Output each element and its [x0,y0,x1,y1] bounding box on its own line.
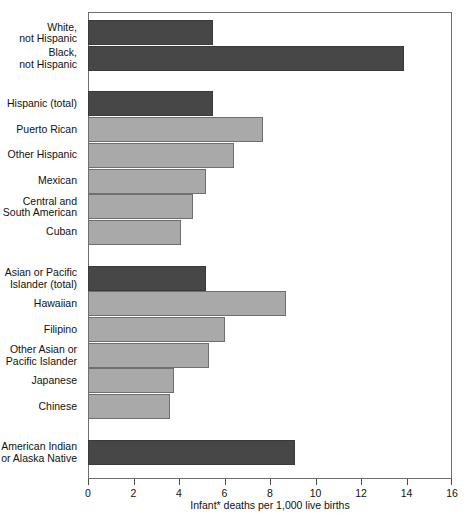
x-axis-tick [270,479,271,485]
bar-row-label: Black, not Hispanic [0,47,77,70]
bar-row-label: Other Hispanic [0,150,77,162]
x-axis-tick [316,479,317,485]
bar [88,343,209,368]
x-axis-tick [88,479,89,485]
bar-row-label: Cuban [0,227,77,239]
bar [88,266,206,291]
bar-row-label: Filipino [0,324,77,336]
bar-row-label: Puerto Rican [0,124,77,136]
bar-track [88,143,452,168]
bar-track [88,194,452,219]
x-axis-tick-label: 4 [176,487,182,499]
infant-mortality-bar-chart: White, not HispanicBlack, not HispanicHi… [0,0,473,526]
x-axis-tick-label: 0 [85,487,91,499]
x-axis-tick-label: 16 [446,487,458,499]
bar-row: Other Hispanic [0,143,473,168]
bar-track [88,266,452,291]
bar-track [88,291,452,316]
bar-row: Hispanic (total) [0,91,473,116]
bar-row-label: White, not Hispanic [0,21,77,44]
x-axis-tick-label: 6 [222,487,228,499]
bar [88,440,295,465]
bar-track [88,368,452,393]
bar-track [88,343,452,368]
bar-row-label: Hawaiian [0,298,77,310]
bar-track [88,220,452,245]
bar-row: Japanese [0,368,473,393]
bar-row-label: American Indian or Alaska Native [0,441,77,464]
x-axis-tick-label: 8 [267,487,273,499]
bar-row: Filipino [0,317,473,342]
bar [88,169,206,194]
bar-row-label: Other Asian or Pacific Islander [0,344,77,367]
bar-track [88,440,452,465]
bar [88,117,263,142]
x-axis-tick-label: 10 [310,487,322,499]
bar-row: Central and South American [0,194,473,219]
bar-row: Other Asian or Pacific Islander [0,343,473,368]
bar-row: American Indian or Alaska Native [0,440,473,465]
bar-row: Mexican [0,169,473,194]
bar-track [88,117,452,142]
bar-row: White, not Hispanic [0,20,473,45]
x-axis-tick [361,479,362,485]
bar [88,20,213,45]
bar [88,317,225,342]
bar-track [88,317,452,342]
bar [88,220,181,245]
bar-row-label: Mexican [0,175,77,187]
x-axis-tick [134,479,135,485]
bar-row: Asian or Pacific Islander (total) [0,266,473,291]
bar-track [88,20,452,45]
bar [88,143,234,168]
bar [88,368,174,393]
bar-track [88,46,452,71]
bar-rows-container: White, not HispanicBlack, not HispanicHi… [0,12,473,479]
x-axis-tick-label: 2 [131,487,137,499]
bar-row: Hawaiian [0,291,473,316]
x-axis-tick-label: 12 [355,487,367,499]
bar [88,394,170,419]
x-axis-tick [407,479,408,485]
bar-row: Chinese [0,394,473,419]
bar-row: Cuban [0,220,473,245]
bar [88,194,193,219]
bar [88,46,404,71]
bar-track [88,91,452,116]
bar-row: Puerto Rican [0,117,473,142]
x-axis-tick [451,479,452,485]
bar-row-label: Asian or Pacific Islander (total) [0,267,77,290]
bar-track [88,169,452,194]
bar [88,291,286,316]
x-axis-tick [225,479,226,485]
bar-row-label: Japanese [0,375,77,387]
bar-row-label: Hispanic (total) [0,98,77,110]
bar-track [88,394,452,419]
x-axis-tick-label: 14 [401,487,413,499]
bar-row: Black, not Hispanic [0,46,473,71]
x-axis-title: Infant* deaths per 1,000 live births [88,499,452,511]
bar [88,91,213,116]
x-axis-tick [179,479,180,485]
bar-row-label: Central and South American [0,195,77,218]
bar-row-label: Chinese [0,401,77,413]
